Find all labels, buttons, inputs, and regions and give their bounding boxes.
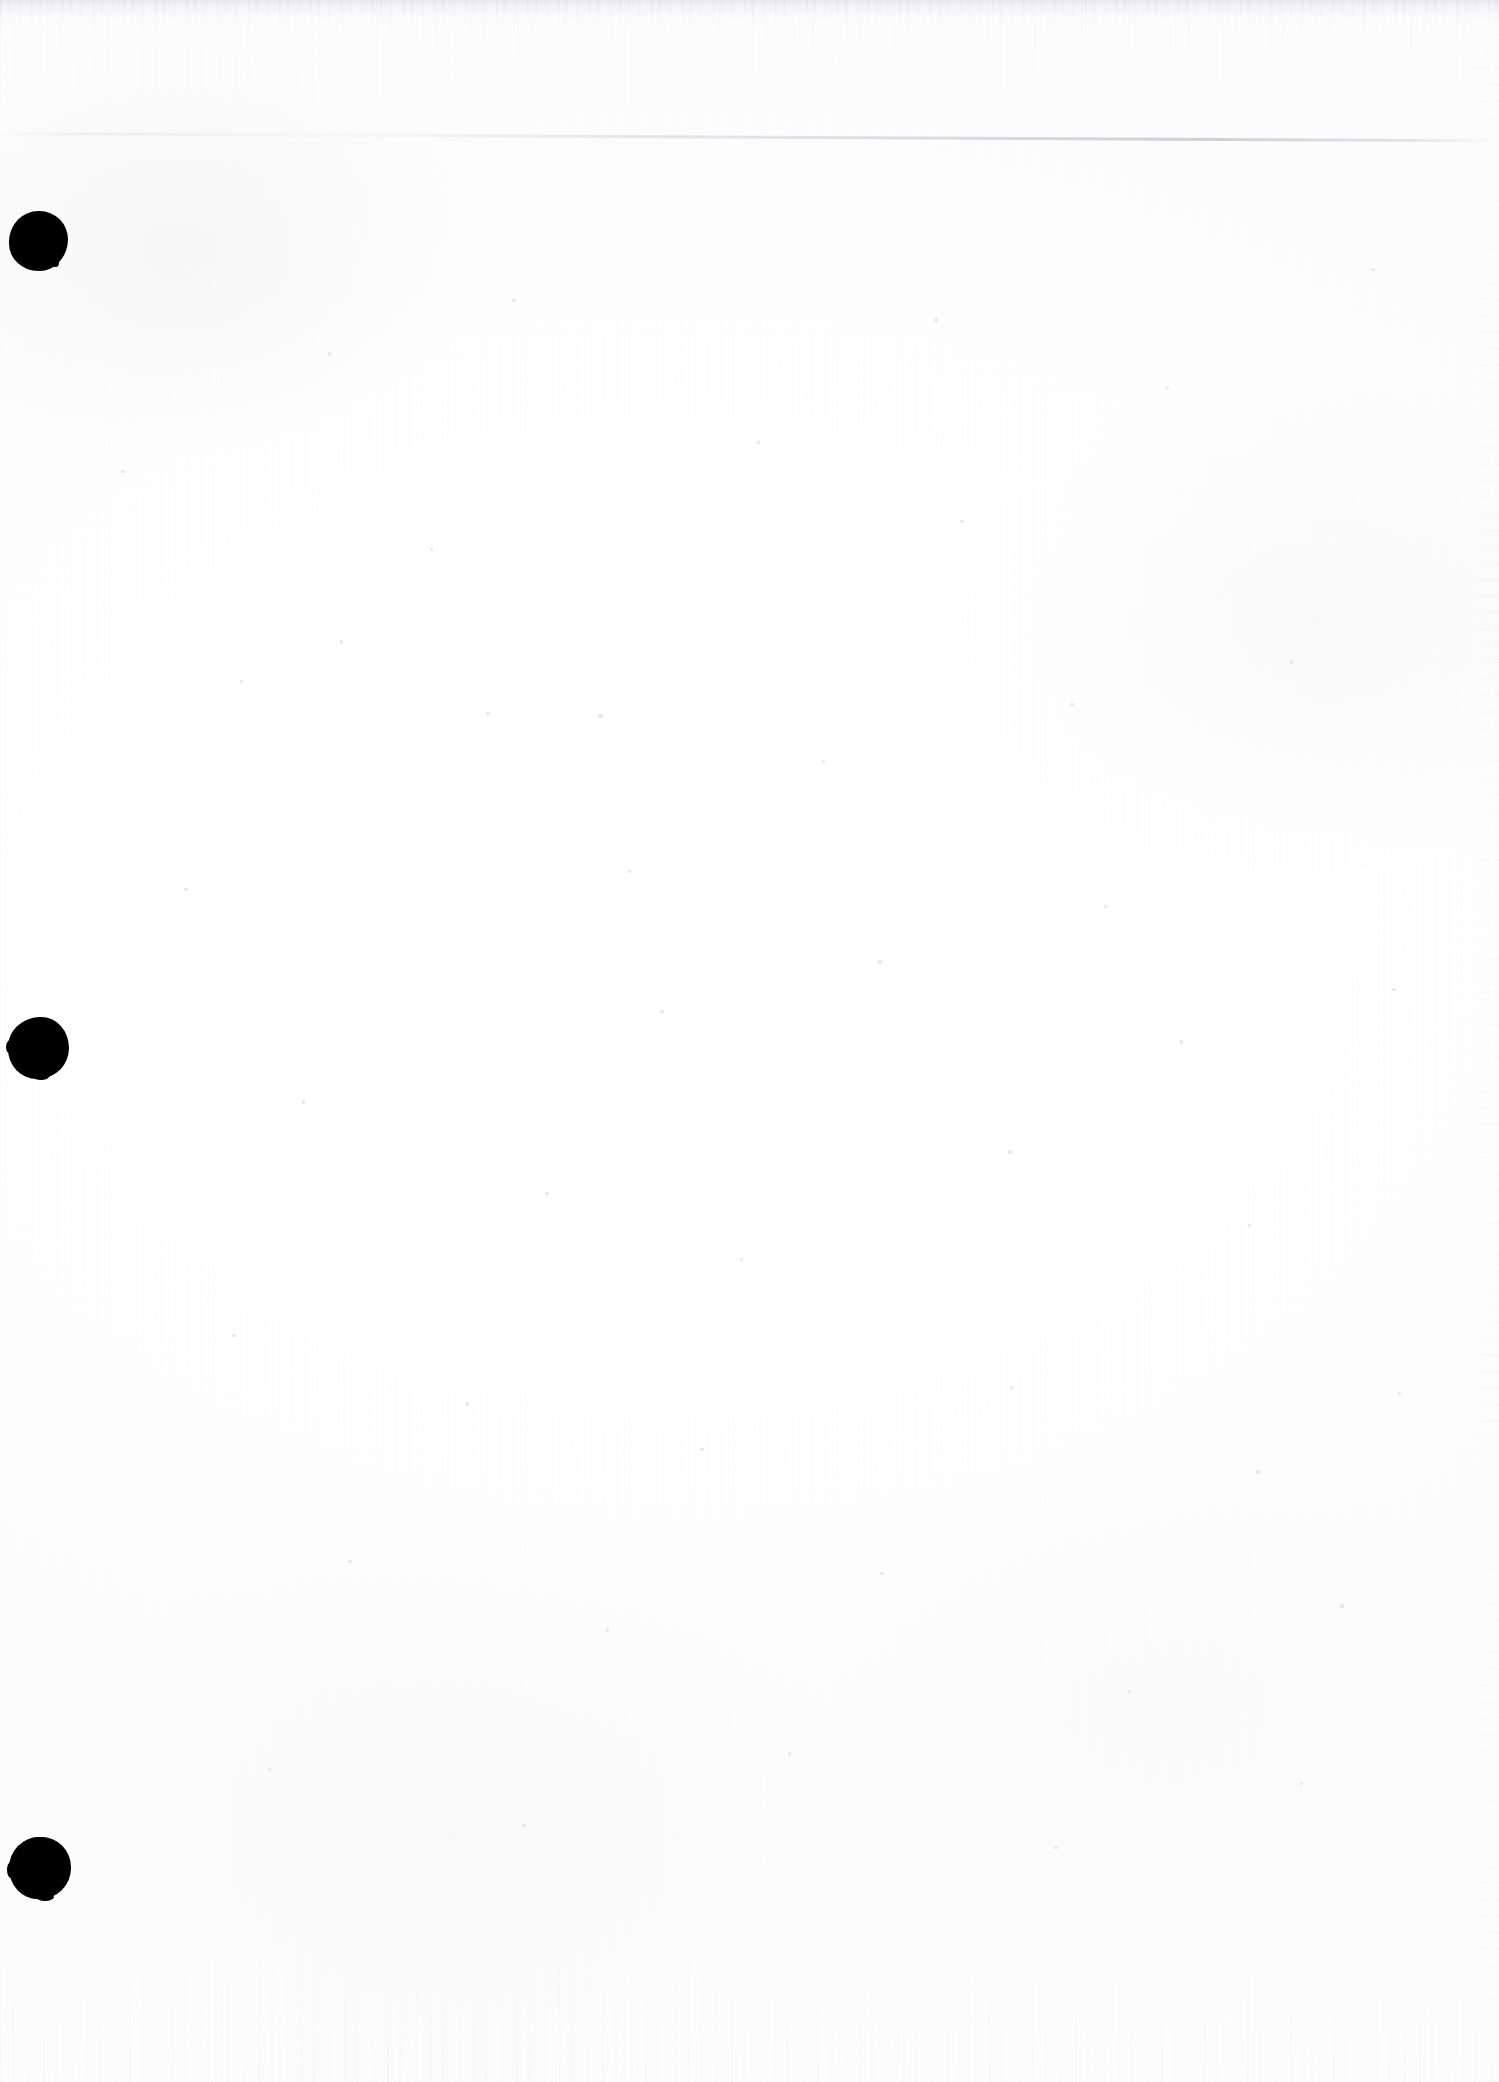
- punch-hole-bottom: [11, 1837, 71, 1899]
- punch-hole-bottom-edge-detail: [7, 1862, 15, 1878]
- punch-hole-top-edge-detail: [26, 264, 40, 270]
- scanned-page: [0, 0, 1499, 2082]
- punch-hole-middle-edge-detail: [33, 1073, 49, 1080]
- punch-hole-top: [10, 211, 68, 269]
- punch-hole-top-edge-detail: [52, 258, 59, 267]
- page-body-content: [120, 300, 1420, 1900]
- punch-hole-middle-edge-detail: [6, 1040, 15, 1054]
- punch-hole-middle: [10, 1017, 69, 1078]
- punch-hole-bottom-edge-detail: [36, 1893, 54, 1901]
